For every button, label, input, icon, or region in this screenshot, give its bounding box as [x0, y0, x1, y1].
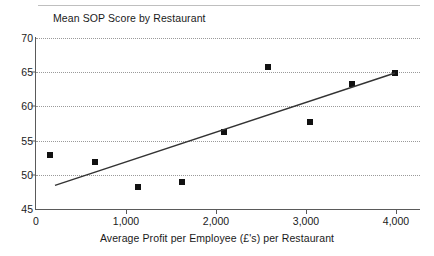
y-tick-mark-50: [31, 174, 35, 175]
y-tick-label-65: 65: [7, 66, 33, 78]
chart-figure: Mean SOP Score by Restaurant 70 65 60 55…: [0, 0, 434, 256]
x-axis-label: Average Profit per Employee (£'s) per Re…: [0, 232, 434, 244]
x-tick-mark-3000: [306, 209, 307, 214]
data-point: [221, 129, 227, 135]
x-tick-mark-2000: [216, 209, 217, 214]
y-axis-line: [35, 37, 36, 210]
gridline-55: [36, 141, 420, 142]
y-tick-label-70: 70: [7, 32, 33, 44]
top-divider-rule: [38, 5, 420, 6]
data-point: [135, 184, 141, 190]
y-axis-ticks: 70 65 60 55 50 45: [0, 0, 33, 256]
y-tick-label-55: 55: [7, 135, 33, 147]
y-tick-label-50: 50: [7, 169, 33, 181]
gridline-65: [36, 72, 420, 73]
y-tick-label-60: 60: [7, 100, 33, 112]
data-point: [307, 119, 313, 125]
x-tick-label-4000: 4,000: [383, 215, 409, 227]
plot-area: [36, 38, 420, 209]
x-tick-mark-4000: [396, 209, 397, 214]
y-tick-label-45: 45: [7, 203, 33, 215]
data-point: [92, 159, 98, 165]
data-point: [392, 70, 398, 76]
gridline-60: [36, 106, 420, 107]
x-axis-line: [36, 209, 420, 210]
gridline-70: [36, 38, 420, 39]
data-point: [349, 81, 355, 87]
y-tick-mark-55: [31, 140, 35, 141]
x-tick-mark-1000: [126, 209, 127, 214]
y-tick-mark-65: [31, 72, 35, 73]
x-tick-label-2000: 2,000: [203, 215, 229, 227]
chart-title: Mean SOP Score by Restaurant: [53, 12, 206, 24]
data-point: [47, 152, 53, 158]
gridline-50: [36, 175, 420, 176]
data-point: [265, 64, 271, 70]
x-tick-label-0: 0: [33, 215, 39, 227]
x-tick-label-1000: 1,000: [113, 215, 139, 227]
x-tick-label-3000: 3,000: [293, 215, 319, 227]
y-tick-mark-60: [31, 106, 35, 107]
data-point: [179, 179, 185, 185]
